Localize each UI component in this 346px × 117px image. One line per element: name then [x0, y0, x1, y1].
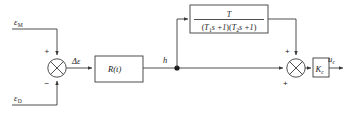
wire-transfer-function-to-sum [268, 19, 296, 55]
label-input-eps-m: εM [14, 17, 23, 28]
input-wire-eps-m [12, 29, 57, 55]
sign-plus-junction-right-top: + [285, 47, 290, 56]
label-transfer-function-numerator: T [227, 10, 232, 19]
sign-plus-junction-right-bottom: + [283, 79, 288, 88]
label-input-eps-d: εD [14, 93, 22, 104]
label-signal-h: h [163, 55, 167, 65]
label-signal-error: Δε [71, 56, 81, 66]
sign-minus-junction-left-bottom: − [45, 79, 50, 88]
label-plant-block: R(t) [107, 64, 121, 74]
wire-branch-to-transfer-function [177, 19, 188, 68]
sign-plus-junction-left-top: + [45, 47, 50, 56]
block-diagram-svg: εM εD + − Δε R(t) h T (T1s +1)(T2s +1) +… [0, 0, 346, 117]
summing-junction-left [48, 59, 66, 77]
summing-junction-right [287, 59, 305, 77]
label-signal-output: uc [328, 54, 335, 65]
block-diagram-canvas: εM εD + − Δε R(t) h T (T1s +1)(T2s +1) +… [0, 0, 346, 117]
